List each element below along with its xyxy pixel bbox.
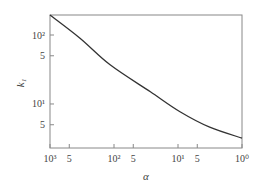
- x-tick-label: 5: [195, 153, 200, 164]
- y-tick-label: 10¹: [32, 98, 45, 109]
- x-tick-label: 5: [67, 153, 72, 164]
- y-tick-label: 10²: [32, 30, 45, 41]
- y-axis-label: k₁: [14, 78, 26, 87]
- y-tick-label: 5: [40, 50, 45, 61]
- chart: 10³510²510¹510⁰ 10²510¹5 α k₁: [0, 0, 260, 190]
- x-axis-label: α: [143, 170, 149, 182]
- x-tick-label: 10²: [108, 153, 121, 164]
- x-axis-ticks: 10³510²510¹510⁰: [44, 144, 250, 164]
- y-axis-ticks: 10²510¹5: [32, 30, 54, 131]
- data-curve: [50, 15, 242, 138]
- x-tick-label: 10³: [44, 153, 57, 164]
- x-tick-label: 5: [131, 153, 136, 164]
- x-tick-label: 10⁰: [235, 153, 249, 164]
- x-tick-label: 10¹: [172, 153, 185, 164]
- y-tick-label: 5: [40, 119, 45, 130]
